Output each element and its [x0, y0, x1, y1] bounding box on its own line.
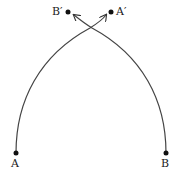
curves-svg	[0, 0, 180, 172]
point-b-prime-dot	[66, 10, 71, 15]
label-a: A	[11, 158, 19, 169]
label-a-prime: A′	[116, 6, 126, 17]
curve-b-to-b-prime	[74, 15, 166, 153]
point-a-prime-dot	[109, 10, 114, 15]
point-a-dot	[14, 151, 19, 156]
curve-a-to-a-prime	[16, 15, 106, 153]
point-b-dot	[164, 151, 169, 156]
diagram: A B B′ A′	[0, 0, 180, 172]
label-b: B	[161, 158, 169, 169]
label-b-prime: B′	[52, 6, 63, 17]
